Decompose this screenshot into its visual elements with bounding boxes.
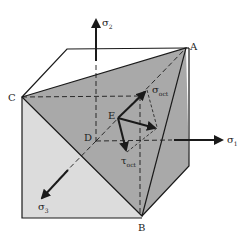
sigma2-label: σ2 [102,17,113,30]
vertex-label-a: A [189,41,198,52]
vertex-label-b: B [138,222,145,233]
sigma1-label: σ1 [227,134,238,147]
vertex-label-e: E [108,110,115,121]
vertex-label-c: C [8,92,16,103]
vertex-label-d: D [84,132,92,143]
octahedral-stress-diagram: A B C D E σ2 σ1 σ3 σoct τoct [0,0,246,238]
